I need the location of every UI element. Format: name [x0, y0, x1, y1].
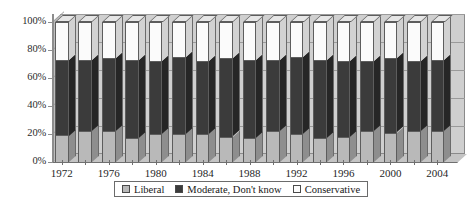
bar-side-face — [162, 22, 169, 162]
legend-item[interactable]: Liberal — [122, 184, 164, 195]
bar-segment[interactable] — [290, 22, 304, 57]
bar-stack — [149, 22, 163, 162]
bar-segment[interactable] — [55, 60, 69, 136]
bar-segment-side — [303, 16, 310, 57]
bar-segment[interactable] — [360, 22, 374, 61]
bar-segment[interactable] — [149, 22, 163, 61]
bar-stack — [313, 22, 327, 162]
bar-group[interactable] — [196, 22, 210, 162]
bar-group[interactable] — [149, 22, 163, 162]
bar-segment-side — [139, 54, 146, 139]
bar-segment-side — [209, 128, 216, 162]
bar-segment[interactable] — [149, 134, 163, 162]
bar-segment[interactable] — [431, 60, 445, 131]
x-axis-tick-mark — [132, 160, 133, 165]
bar-group[interactable] — [384, 22, 398, 162]
bar-segment[interactable] — [407, 131, 421, 162]
y-axis-tick-label: 20% — [0, 128, 46, 138]
bar-group[interactable] — [243, 22, 257, 162]
bar-segment[interactable] — [125, 60, 139, 138]
bar-segment-side — [303, 128, 310, 162]
bar-group[interactable] — [78, 22, 92, 162]
x-axis-tick-mark — [179, 160, 180, 165]
bar-segment[interactable] — [125, 22, 139, 60]
bar-group[interactable] — [125, 22, 139, 162]
bar-segment[interactable] — [266, 131, 280, 162]
bar-segment[interactable] — [384, 133, 398, 162]
bar-segment[interactable] — [313, 60, 327, 138]
bar-segment[interactable] — [313, 138, 327, 162]
bar-segment[interactable] — [102, 131, 116, 162]
bar-group[interactable] — [407, 22, 421, 162]
chart-legend: LiberalModerate, Don't knowConservative — [114, 181, 368, 197]
x-axis-tick-mark — [273, 160, 274, 165]
bar-segment[interactable] — [384, 22, 398, 58]
bar-segment[interactable] — [313, 22, 327, 60]
bar-segment[interactable] — [290, 57, 304, 134]
x-axis-tick-label: 1988 — [230, 167, 270, 179]
bar-segment[interactable] — [219, 58, 233, 136]
bar-segment[interactable] — [219, 137, 233, 162]
bar-group[interactable] — [431, 22, 445, 162]
bar-segment[interactable] — [125, 138, 139, 162]
bar-side-face — [69, 22, 76, 162]
bar-group[interactable] — [219, 22, 233, 162]
bar-group[interactable] — [337, 22, 351, 162]
bar-segment[interactable] — [78, 131, 92, 162]
bar-segment[interactable] — [149, 61, 163, 134]
bar-segment[interactable] — [431, 22, 445, 60]
bar-segment-side — [280, 54, 287, 132]
bar-segment[interactable] — [407, 22, 421, 61]
bar-group[interactable] — [290, 22, 304, 162]
x-axis-tick-mark — [297, 160, 298, 165]
bar-segment[interactable] — [337, 22, 351, 61]
bar-segment[interactable] — [243, 22, 257, 60]
bar-group[interactable] — [55, 22, 69, 162]
bar-segment-side — [421, 55, 428, 131]
bar-segment[interactable] — [243, 60, 257, 138]
x-axis-tick-label: 1980 — [136, 167, 176, 179]
legend-item-label: Moderate, Don't know — [187, 184, 281, 195]
bar-segment[interactable] — [337, 137, 351, 162]
bar-segment[interactable] — [337, 61, 351, 137]
bar-group[interactable] — [360, 22, 374, 162]
bar-segment-side — [327, 54, 334, 139]
bar-segment[interactable] — [102, 22, 116, 58]
bar-stack — [78, 22, 92, 162]
bar-segment[interactable] — [196, 61, 210, 134]
bar-segment[interactable] — [384, 58, 398, 132]
bar-segment[interactable] — [172, 134, 186, 162]
bar-segment[interactable] — [266, 22, 280, 60]
bar-side-face — [186, 22, 193, 162]
bar-stack — [172, 22, 186, 162]
bar-segment[interactable] — [219, 22, 233, 58]
bar-segment[interactable] — [266, 60, 280, 131]
bar-segment-side — [280, 16, 287, 60]
bar-segment[interactable] — [243, 138, 257, 162]
bar-segment[interactable] — [360, 61, 374, 131]
bar-group[interactable] — [313, 22, 327, 162]
bar-segment-side — [209, 16, 216, 61]
legend-item[interactable]: Conservative — [293, 184, 360, 195]
bar-stack — [55, 22, 69, 162]
bar-segment[interactable] — [196, 134, 210, 162]
bar-group[interactable] — [102, 22, 116, 162]
bar-segment[interactable] — [102, 58, 116, 131]
bar-segment[interactable] — [55, 135, 69, 162]
bar-segment[interactable] — [78, 60, 92, 131]
bar-segment[interactable] — [172, 57, 186, 134]
bar-segment[interactable] — [431, 131, 445, 162]
bar-group[interactable] — [266, 22, 280, 162]
bar-group[interactable] — [172, 22, 186, 162]
bar-segment[interactable] — [55, 22, 69, 60]
bar-segment[interactable] — [196, 22, 210, 61]
legend-item[interactable]: Moderate, Don't know — [175, 184, 281, 195]
x-axis-tick-label: 1976 — [89, 167, 129, 179]
bar-segment-side — [116, 52, 123, 131]
bar-segment[interactable] — [407, 61, 421, 131]
bar-segment[interactable] — [172, 22, 186, 57]
bar-segment[interactable] — [78, 22, 92, 60]
bar-segment[interactable] — [290, 134, 304, 162]
bar-segment[interactable] — [360, 131, 374, 162]
bar-segment-side — [186, 51, 193, 134]
